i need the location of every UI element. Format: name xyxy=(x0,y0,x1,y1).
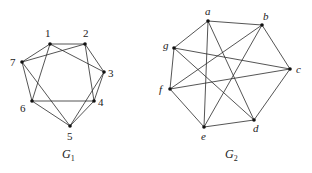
edge-d-c xyxy=(254,69,290,120)
vertex-label: e xyxy=(201,130,206,142)
vertex-label: a xyxy=(205,5,211,17)
vertex-label: 6 xyxy=(20,102,26,114)
vertex-label: 1 xyxy=(45,27,51,39)
edge-2-4 xyxy=(85,44,94,101)
edge-6-5 xyxy=(32,101,70,126)
graph-caption: G1 xyxy=(62,147,75,163)
edge-g-c xyxy=(174,48,290,69)
vertex-label: b xyxy=(263,10,269,22)
edge-f-c xyxy=(170,69,290,89)
vertex-f xyxy=(168,87,172,91)
graph-caption: G2 xyxy=(225,147,238,163)
vertex-7 xyxy=(20,60,24,64)
vertex-label: 4 xyxy=(98,96,104,108)
edge-e-d xyxy=(204,120,254,127)
vertex-e xyxy=(202,125,206,129)
vertex-label: 5 xyxy=(67,130,73,142)
edge-1-6 xyxy=(32,44,50,101)
vertex-b xyxy=(260,23,264,27)
vertex-c xyxy=(288,67,292,71)
edge-2-3 xyxy=(85,44,104,72)
graph-g1: 1234567G1 xyxy=(10,27,114,163)
edge-a-g xyxy=(174,21,208,48)
edge-a-b xyxy=(208,21,262,25)
vertex-label: 7 xyxy=(10,56,16,68)
edge-g-f xyxy=(170,48,174,89)
graph-g2: abcdefgG2 xyxy=(159,5,301,163)
vertex-label: c xyxy=(296,63,301,75)
vertex-1 xyxy=(48,42,52,46)
vertex-6 xyxy=(30,99,34,103)
vertex-label: f xyxy=(159,83,164,95)
edge-7-6 xyxy=(22,62,32,101)
vertex-a xyxy=(206,19,210,23)
vertex-4 xyxy=(92,99,96,103)
edge-7-5 xyxy=(22,62,70,126)
edge-1-7 xyxy=(22,44,50,62)
vertex-3 xyxy=(102,70,106,74)
vertex-g xyxy=(172,46,176,50)
vertex-2 xyxy=(83,42,87,46)
vertex-5 xyxy=(68,124,72,128)
edge-5-4 xyxy=(70,101,94,126)
vertex-label: 2 xyxy=(83,27,89,39)
vertex-label: g xyxy=(163,39,169,51)
edge-f-e xyxy=(170,89,204,127)
edge-1-3 xyxy=(50,44,104,72)
edge-2-7 xyxy=(22,44,85,62)
edge-b-c xyxy=(262,25,290,69)
vertex-label: 3 xyxy=(108,67,114,79)
vertex-label: d xyxy=(253,122,259,134)
edge-a-e xyxy=(204,21,208,127)
graph-figure: 1234567G1 abcdefgG2 xyxy=(0,0,312,173)
edge-b-e xyxy=(204,25,262,127)
